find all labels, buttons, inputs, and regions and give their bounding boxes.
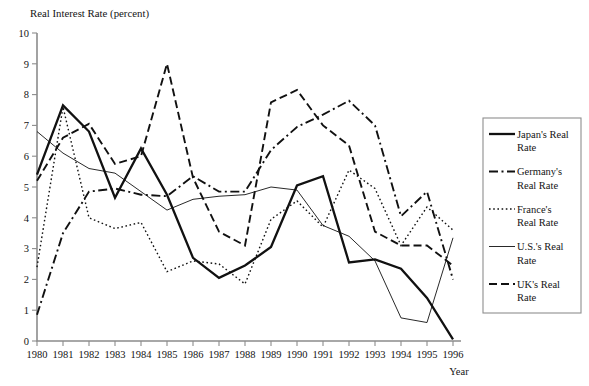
x-tick-label: 1994 <box>391 349 413 360</box>
legend-label-line2: Rate <box>517 142 537 153</box>
x-tick-label: 1988 <box>235 349 256 360</box>
x-tick-label: 1990 <box>287 349 308 360</box>
legend-item[interactable]: Germany'sReal Rate <box>489 166 562 190</box>
x-tick-label: 1980 <box>27 349 48 360</box>
legend-label-line2: Rate <box>517 292 537 303</box>
y-tick-label: 4 <box>24 213 30 224</box>
x-tick-label: 1991 <box>313 349 334 360</box>
y-tick-label: 1 <box>24 305 29 316</box>
series-line-uk-s-real-rate <box>37 64 453 266</box>
y-tick-label: 8 <box>24 89 29 100</box>
real-interest-rate-chart: Real Interest Rate (percent) 01234567891… <box>0 0 589 386</box>
x-tick-label: 1983 <box>105 349 126 360</box>
x-tick-label: 1985 <box>157 349 178 360</box>
x-tick-label: 1981 <box>53 349 74 360</box>
y-tick-label: 0 <box>24 336 29 347</box>
x-tick-label: 1989 <box>261 349 282 360</box>
x-tick-label: 1996 <box>443 349 464 360</box>
legend-label-line1: UK's Real <box>517 279 560 290</box>
y-tick-label: 9 <box>24 59 29 70</box>
legend-label-line1: Japan's Real <box>517 129 569 140</box>
y-tick-label: 3 <box>24 243 29 254</box>
legend-label-line2: Real Rate <box>517 217 558 228</box>
legend-label-line2: Real Rate <box>517 180 558 191</box>
legend-label-line1: France's <box>517 204 552 215</box>
y-tick-label: 10 <box>19 28 30 39</box>
legend-item[interactable]: UK's RealRate <box>489 279 560 303</box>
legend-item[interactable]: Japan's RealRate <box>489 129 569 153</box>
y-tick-label: 2 <box>24 274 29 285</box>
y-tick-label: 6 <box>24 151 29 162</box>
y-tick-label: 5 <box>24 182 29 193</box>
chart-title: Real Interest Rate (percent) <box>30 7 149 20</box>
x-tick-label: 1984 <box>131 349 153 360</box>
legend-label-line2: Rate <box>517 255 537 266</box>
series-line-france-s-real-rate <box>37 107 453 284</box>
legend-label-line1: Germany's <box>517 166 562 177</box>
x-tick-label: 1986 <box>183 349 204 360</box>
x-axis-title: Year <box>449 366 469 377</box>
x-tick-label: 1993 <box>365 349 386 360</box>
legend-item[interactable]: France'sReal Rate <box>489 204 558 228</box>
legend-label-line1: U.S.'s Real <box>517 241 564 252</box>
x-tick-label: 1995 <box>417 349 438 360</box>
x-tick-label: 1982 <box>79 349 100 360</box>
x-tick-label: 1992 <box>339 349 360 360</box>
y-tick-label: 7 <box>24 120 29 131</box>
x-tick-label: 1987 <box>209 349 230 360</box>
legend-item[interactable]: U.S.'s RealRate <box>489 241 564 265</box>
chart-canvas: Real Interest Rate (percent) 01234567891… <box>0 0 589 386</box>
